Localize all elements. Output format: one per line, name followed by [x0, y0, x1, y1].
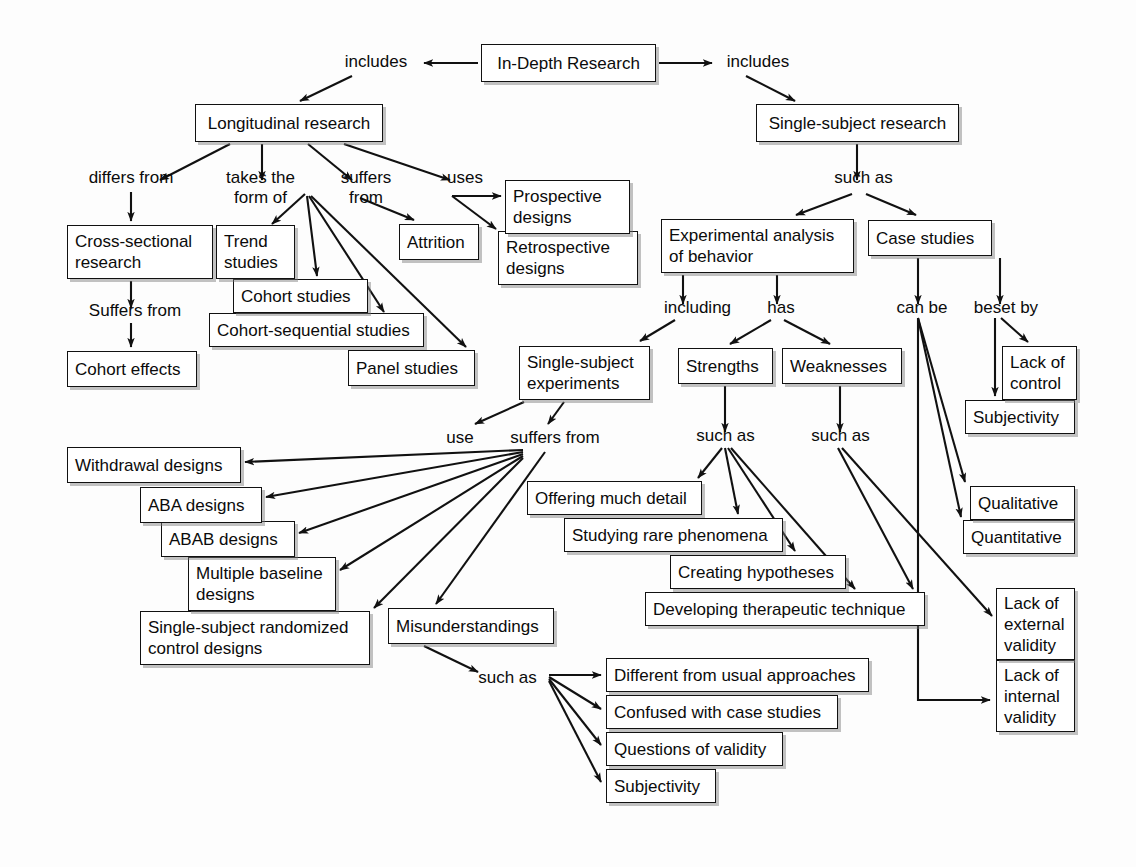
node-experimental-analysis-of-behavior[interactable]: Experimental analysis of behavior: [661, 219, 854, 273]
node-attrition[interactable]: Attrition: [399, 224, 479, 260]
link-label-differs-from: differs from: [76, 168, 186, 188]
node-abab-designs[interactable]: ABAB designs: [161, 521, 295, 557]
node-misunderstandings[interactable]: Misunderstandings: [388, 608, 554, 644]
link-label-includes-left: includes: [336, 52, 416, 72]
link-label-beset-by: beset by: [965, 298, 1047, 318]
edge-ssexperiments-to-suffersfrom2: [548, 402, 564, 424]
edge-suchas-to-offering: [698, 448, 722, 478]
node-strengths[interactable]: Strengths: [678, 348, 773, 384]
node-qualitative[interactable]: Qualitative: [970, 486, 1075, 520]
node-cross-sectional-research[interactable]: Cross-sectional research: [67, 225, 213, 279]
edge-suchasm-to-subjectivity: [549, 681, 601, 782]
edge-suchas-to-expanalysis: [796, 194, 852, 215]
node-trend-studies[interactable]: Trend studies: [216, 225, 295, 279]
node-developing-therapeutic-technique[interactable]: Developing therapeutic technique: [645, 592, 925, 626]
node-quantitative[interactable]: Quantitative: [963, 520, 1075, 554]
edge-includes-right-to-singlesubject: [746, 76, 795, 101]
node-confused-with-case-studies[interactable]: Confused with case studies: [606, 695, 838, 729]
node-single-subject-research[interactable]: Single-subject research: [756, 104, 959, 142]
edge-including-to-ssexperiments: [640, 320, 675, 341]
link-label-such-as-weaknesses: such as: [803, 426, 878, 446]
link-label-such-as-single-subject: such as: [826, 168, 901, 188]
node-single-subject-randomized-control-designs[interactable]: Single-subject randomized control design…: [140, 611, 370, 665]
link-label-including: including: [655, 298, 740, 318]
node-cohort-sequential-studies[interactable]: Cohort-sequential studies: [209, 313, 424, 347]
node-subjectivity-bottom[interactable]: Subjectivity: [606, 769, 716, 803]
link-label-use: use: [440, 428, 480, 448]
node-cohort-studies[interactable]: Cohort studies: [233, 279, 368, 313]
edge-suchasm-to-confused: [549, 677, 601, 709]
node-offering-much-detail[interactable]: Offering much detail: [527, 481, 702, 515]
node-questions-of-validity[interactable]: Questions of validity: [606, 732, 783, 766]
edge-canbe-to-qualitative: [918, 318, 965, 482]
node-creating-hypotheses[interactable]: Creating hypotheses: [670, 555, 846, 589]
link-label-suffers-from-cross-sectional: Suffers from: [75, 301, 195, 321]
edge-suchasm-to-questions: [549, 679, 601, 745]
node-longitudinal-research[interactable]: Longitudinal research: [195, 104, 383, 142]
node-panel-studies[interactable]: Panel studies: [348, 350, 475, 386]
concept-map-canvas: In-Depth Research Longitudinal research …: [0, 0, 1136, 867]
edge-suchas-to-studying: [725, 448, 738, 514]
node-cohort-effects[interactable]: Cohort effects: [67, 351, 197, 387]
link-label-has: has: [761, 298, 801, 318]
node-prospective-designs[interactable]: Prospective designs: [505, 180, 630, 234]
link-label-includes-right: includes: [718, 52, 798, 72]
node-single-subject-experiments[interactable]: Single-subject experiments: [519, 346, 650, 400]
edge-includes-left-to-longitudinal: [300, 76, 352, 101]
link-label-uses: uses: [440, 168, 490, 188]
edge-takesform-to-cohortstudies: [307, 196, 317, 276]
edge-suchas-to-casestudies: [866, 194, 916, 215]
edge-suchasw-to-developing: [838, 448, 913, 589]
edge-has-to-strengths: [730, 320, 771, 344]
node-multiple-baseline-designs[interactable]: Multiple baseline designs: [188, 557, 336, 611]
node-different-from-usual-approaches[interactable]: Different from usual approaches: [606, 658, 869, 692]
node-studying-rare-phenomena[interactable]: Studying rare phenomena: [564, 518, 783, 552]
node-lack-of-internal-validity[interactable]: Lack of internal validity: [996, 660, 1075, 732]
link-label-takes-the-form-of: takes the form of: [213, 168, 308, 208]
edge-use-to-multiplebaseline: [340, 456, 523, 570]
node-weaknesses[interactable]: Weaknesses: [782, 348, 902, 384]
node-retrospective-designs[interactable]: Retrospective designs: [498, 231, 638, 285]
node-lack-of-external-validity[interactable]: Lack of external validity: [996, 588, 1075, 660]
edge-canbe-to-quantitative: [918, 318, 961, 517]
link-label-such-as-misunderstandings: such as: [470, 668, 545, 688]
node-withdrawal-designs[interactable]: Withdrawal designs: [67, 447, 241, 483]
node-lack-of-control[interactable]: Lack of control: [1002, 346, 1077, 400]
node-case-studies[interactable]: Case studies: [868, 220, 992, 256]
link-label-suffers-from-experiments: suffers from: [497, 428, 613, 448]
node-aba-designs[interactable]: ABA designs: [140, 487, 262, 523]
edge-use-to-abab: [299, 454, 523, 533]
edge-besetby-to-lackofcontrol: [1001, 318, 1028, 342]
edge-has-to-weaknesses: [784, 320, 830, 344]
node-in-depth-research[interactable]: In-Depth Research: [481, 44, 656, 82]
link-label-can-be: can be: [888, 298, 956, 318]
edge-ssexperiments-to-use: [475, 402, 524, 424]
link-label-suffers-from-longitudinal: suffers from: [331, 168, 401, 208]
link-label-such-as-strengths: such as: [688, 426, 763, 446]
node-subjectivity-right[interactable]: Subjectivity: [965, 400, 1075, 434]
